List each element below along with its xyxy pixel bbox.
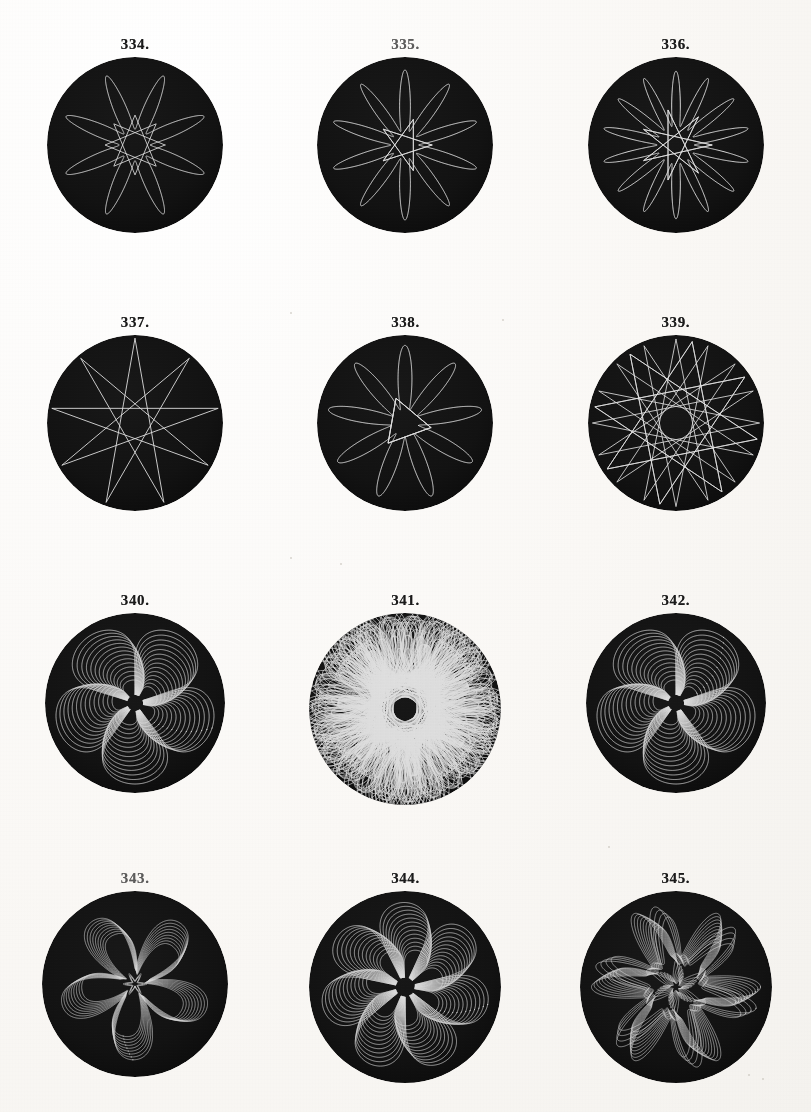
figure-cell-340: 340.: [0, 556, 270, 834]
figure-339-curve: [588, 335, 764, 511]
figure-338-curve: [317, 335, 493, 511]
figure-345-curve: [580, 891, 772, 1083]
figure-cell-344: 344.: [270, 834, 540, 1112]
figure-number-label: 336.: [662, 36, 691, 53]
figure-number-label: 344.: [391, 870, 420, 887]
figure-number-label: 342.: [662, 592, 691, 609]
figure-cell-336: 336.: [541, 0, 811, 278]
figure-disc-336: [588, 57, 764, 233]
figure-cell-342: 342.: [541, 556, 811, 834]
figure-number-label: 337.: [121, 314, 150, 331]
figure-disc-343: [42, 891, 228, 1077]
figure-number-label: 340.: [121, 592, 150, 609]
figure-grid: 334.335.336.337.338.339.340.341.342.343.…: [0, 0, 811, 1112]
figure-number-label: 343.: [121, 870, 150, 887]
figure-344-curve: [309, 891, 501, 1083]
figure-number-label: 338.: [391, 314, 420, 331]
figure-cell-341: 341.: [270, 556, 540, 834]
figure-number-label: 345.: [662, 870, 691, 887]
figure-disc-337: [47, 335, 223, 511]
figure-cell-343: 343.: [0, 834, 270, 1112]
figure-disc-339: [588, 335, 764, 511]
figure-disc-341: [309, 613, 501, 805]
figure-337-curve: [47, 335, 223, 511]
figure-cell-334: 334.: [0, 0, 270, 278]
figure-340-curve: [45, 613, 225, 793]
figure-cell-337: 337.: [0, 278, 270, 556]
figure-disc-344: [309, 891, 501, 1083]
figure-number-label: 339.: [662, 314, 691, 331]
figure-disc-338: [317, 335, 493, 511]
figure-number-label: 335.: [391, 36, 420, 53]
figure-disc-340: [45, 613, 225, 793]
figure-disc-335: [317, 57, 493, 233]
figure-cell-335: 335.: [270, 0, 540, 278]
figure-335-curve: [317, 57, 493, 233]
figure-number-label: 334.: [121, 36, 150, 53]
figure-cell-339: 339.: [541, 278, 811, 556]
figure-disc-342: [586, 613, 766, 793]
figure-341-curve: [309, 613, 501, 805]
figure-336-curve: [588, 57, 764, 233]
figure-disc-345: [580, 891, 772, 1083]
figure-342-curve: [586, 613, 766, 793]
figure-number-label: 341.: [391, 592, 420, 609]
engraving-plate: 334.335.336.337.338.339.340.341.342.343.…: [0, 0, 811, 1112]
figure-cell-338: 338.: [270, 278, 540, 556]
figure-disc-334: [47, 57, 223, 233]
figure-343-curve: [42, 891, 228, 1077]
figure-cell-345: 345.: [541, 834, 811, 1112]
figure-334-curve: [47, 57, 223, 233]
